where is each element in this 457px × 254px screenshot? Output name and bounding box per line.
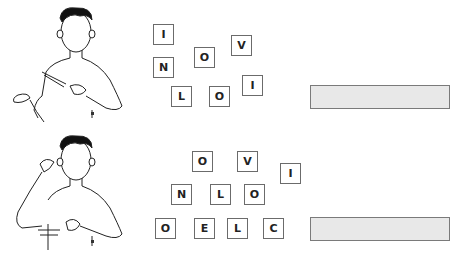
letter-tile[interactable]: L (171, 86, 192, 107)
sign-language-figure-1 (0, 0, 140, 130)
letter-tile[interactable]: E (194, 218, 215, 239)
letter-tile[interactable]: I (153, 24, 174, 45)
sign-language-figure-2 (0, 130, 140, 254)
answer-input-box[interactable] (310, 217, 450, 241)
letter-tile[interactable]: L (227, 218, 248, 239)
letter-tile[interactable]: I (242, 75, 263, 96)
letter-tile[interactable]: O (209, 86, 230, 107)
letter-tile[interactable]: O (244, 184, 265, 205)
letter-tile[interactable]: I (280, 163, 301, 184)
letter-tile[interactable]: L (210, 184, 231, 205)
letter-tile[interactable]: C (263, 218, 284, 239)
letter-tile[interactable]: N (153, 57, 174, 78)
letter-tile[interactable]: O (192, 151, 213, 172)
letter-tile[interactable]: V (231, 35, 252, 56)
answer-input-box[interactable] (310, 85, 450, 109)
letter-tile[interactable]: O (194, 47, 215, 68)
letter-tile[interactable]: N (171, 184, 192, 205)
letter-tile[interactable]: O (155, 218, 176, 239)
letter-tile[interactable]: V (237, 151, 258, 172)
